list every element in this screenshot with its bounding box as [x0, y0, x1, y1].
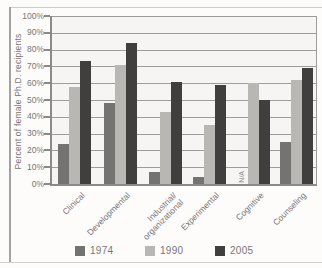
- gridline: [52, 83, 316, 84]
- y-axis-tick: [44, 166, 50, 168]
- legend-label: 2005: [230, 245, 253, 256]
- bar-2005: [171, 82, 182, 184]
- bar-1974: [104, 103, 115, 184]
- y-tick-label: 30%: [0, 128, 44, 139]
- y-axis-tick: [44, 15, 50, 17]
- missing-value-slot: N/A: [237, 154, 248, 184]
- figure-frame-bottom: [0, 262, 322, 263]
- legend-item-1990: 1990: [145, 245, 183, 256]
- y-axis-tick: [44, 65, 50, 67]
- bar-1990: [291, 80, 302, 184]
- plot-area: N/A: [50, 16, 317, 186]
- bar-2005: [215, 85, 226, 184]
- gridline: [52, 33, 316, 34]
- y-tick-label: 60%: [0, 78, 44, 89]
- x-category-label: Clinical: [61, 191, 87, 217]
- phd-recipients-bar-chart: Percent of female Ph.D. recipients N/A 0…: [0, 0, 322, 268]
- x-axis-labels: ClinicalDevelopmentalIndustrial/ organiz…: [50, 188, 314, 248]
- gridline: [52, 66, 316, 67]
- y-axis-tick: [44, 32, 50, 34]
- y-tick-label: 70%: [0, 61, 44, 72]
- y-tick-label: 0%: [0, 179, 44, 190]
- y-tick-label: 40%: [0, 111, 44, 122]
- legend-label: 1974: [90, 245, 113, 256]
- gridline: [52, 134, 316, 135]
- bar-1990: [204, 125, 215, 184]
- x-category-label: Experimental: [180, 191, 222, 233]
- y-axis-tick: [44, 49, 50, 51]
- y-axis-tick: [44, 82, 50, 84]
- bar-1974: [280, 142, 291, 184]
- na-label: N/A: [238, 171, 245, 183]
- y-tick-label: 50%: [0, 95, 44, 106]
- bar-2005: [126, 43, 137, 184]
- chart-legend: 197419902005: [0, 245, 322, 261]
- gridline: [52, 167, 316, 168]
- gridline: [52, 117, 316, 118]
- gridline: [52, 150, 316, 151]
- gridline: [52, 50, 316, 51]
- y-tick-label: 10%: [0, 162, 44, 173]
- x-category-label: Developmental: [86, 191, 133, 238]
- y-tick-label: 90%: [0, 27, 44, 38]
- bar-group-3: [149, 16, 182, 184]
- y-tick-label: 20%: [0, 145, 44, 156]
- bar-1990: [248, 83, 259, 184]
- gridline: [52, 16, 316, 17]
- x-category-label: Cognitive: [234, 191, 266, 223]
- x-category-label: Industrial/ organizational: [134, 191, 185, 242]
- legend-item-2005: 2005: [215, 245, 253, 256]
- bar-1974: [193, 177, 204, 184]
- legend-swatch: [215, 246, 225, 256]
- x-category-label: Counseling: [272, 191, 309, 228]
- bar-1990: [69, 87, 80, 184]
- y-axis-tick: [44, 149, 50, 151]
- legend-swatch: [75, 246, 85, 256]
- bar-1990: [160, 112, 171, 184]
- bar-1990: [115, 65, 126, 184]
- gridline: [52, 100, 316, 101]
- y-axis-tick: [44, 183, 50, 185]
- y-axis-tick: [44, 99, 50, 101]
- bar-group-1: [58, 16, 91, 184]
- bar-group-5: N/A: [237, 16, 270, 184]
- legend-item-1974: 1974: [75, 245, 113, 256]
- bar-group-6: [280, 16, 313, 184]
- bar-2005: [302, 68, 313, 184]
- bar-2005: [80, 61, 91, 184]
- y-tick-label: 80%: [0, 44, 44, 55]
- bar-group-4: [193, 16, 226, 184]
- bar-group-2: [104, 16, 137, 184]
- bar-2005: [259, 100, 270, 184]
- y-tick-label: 100%: [0, 11, 44, 22]
- bar-1974: [58, 144, 69, 184]
- bar-1974: [149, 172, 160, 184]
- legend-swatch: [145, 246, 155, 256]
- y-axis-tick: [44, 116, 50, 118]
- y-axis-tick: [44, 133, 50, 135]
- figure-frame-top: [9, 7, 322, 8]
- legend-label: 1990: [160, 245, 183, 256]
